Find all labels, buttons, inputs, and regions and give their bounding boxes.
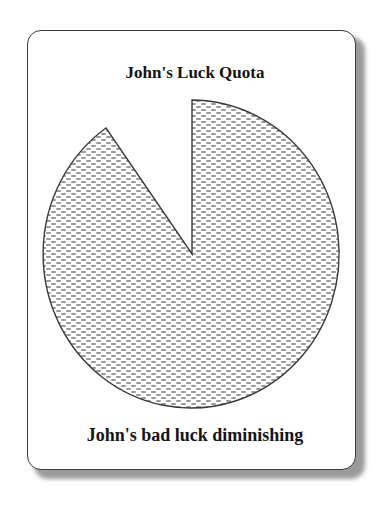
chart-caption: John's bad luck diminishing <box>0 425 390 446</box>
pie-slice-filled <box>43 100 339 408</box>
